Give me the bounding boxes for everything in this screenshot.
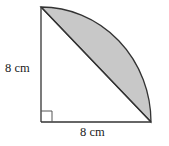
quarter-circle-diagram: 8 cm 8 cm — [0, 0, 169, 146]
horizontal-side-label: 8 cm — [80, 125, 105, 139]
vertical-side-label: 8 cm — [5, 61, 30, 75]
right-angle-marker — [41, 111, 52, 122]
